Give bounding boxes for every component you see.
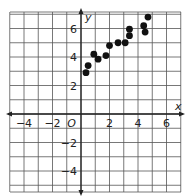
origin-label: O (67, 117, 76, 130)
data-point (103, 52, 110, 59)
data-point (115, 39, 122, 46)
x-tick-label: −4 (16, 117, 32, 130)
y-tick-label: −4 (61, 165, 77, 178)
x-axis-arrow-left-icon (6, 112, 12, 117)
data-point (145, 14, 152, 21)
x-tick-label: −2 (44, 117, 60, 130)
y-axis-arrow-down-icon (79, 190, 84, 196)
y-tick-label: −2 (61, 137, 77, 150)
data-point (95, 56, 102, 63)
x-tick-label: 2 (106, 117, 113, 130)
y-tick-label: 4 (70, 51, 77, 64)
y-tick-label: 2 (70, 80, 77, 93)
x-tick-label: 4 (135, 117, 142, 130)
data-point (140, 22, 147, 29)
grid (10, 12, 181, 192)
y-axis-label: y (84, 11, 92, 24)
data-point (142, 29, 149, 36)
tick-labels: −4−2246642−2−4Oxy (16, 11, 182, 178)
data-point (122, 39, 129, 46)
data-point (83, 69, 90, 76)
y-tick-label: 6 (70, 23, 77, 36)
y-axis-arrow-up-icon (79, 8, 84, 14)
data-point (126, 32, 133, 39)
data-point (85, 62, 92, 69)
x-tick-label: 6 (163, 117, 170, 130)
x-axis-label: x (174, 100, 182, 113)
data-point (106, 42, 113, 49)
scatter-plot: −4−2246642−2−4Oxy (0, 0, 189, 196)
data-points (83, 14, 152, 76)
data-point (126, 26, 133, 33)
